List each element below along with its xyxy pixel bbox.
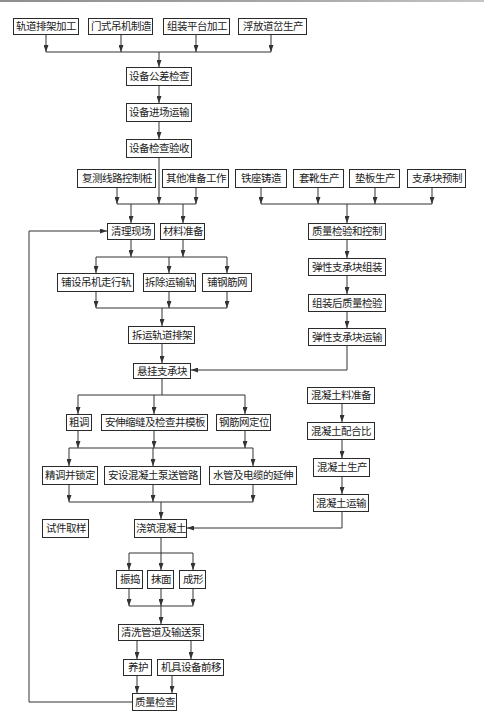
node-move-equipment-forward: 机具设备前移 — [157, 659, 224, 676]
arrow — [187, 512, 342, 528]
node-clean-pipe-pump: 清洗管道及输送泵 — [118, 624, 204, 641]
connectors-equipment-prep — [46, 35, 271, 223]
node-equipment-site-transport: 设备进场运输 — [126, 103, 192, 122]
node-quality-inspection-control: 质量检验和控制 — [308, 223, 386, 240]
node-elastic-block-assembly: 弹性支承块组装 — [308, 258, 386, 276]
node-vibrate: 振捣 — [116, 570, 143, 589]
node-concrete-production: 混凝土生产 — [313, 458, 370, 477]
node-assembly-platform-processing: 组装平台加工 — [163, 18, 230, 35]
node-other-preparation: 其他准备工作 — [162, 169, 229, 188]
node-dismantle-track-frame: 拆运轨道排架 — [128, 326, 195, 344]
node-pad-plate-production: 垫板生产 — [349, 169, 400, 188]
connector-layer — [0, 0, 484, 725]
node-floating-turnout-production: 浮放道岔生产 — [238, 18, 307, 35]
node-post-assembly-inspection: 组装后质量检验 — [308, 294, 386, 312]
node-equipment-tolerance-check: 设备公差检查 — [126, 67, 192, 86]
node-resurvey-control-stakes: 复测线路控制桩 — [77, 169, 156, 188]
node-concrete-material-prep: 混凝土料准备 — [307, 387, 375, 404]
node-support-block-precast: 支承块预制 — [407, 169, 466, 188]
node-hang-support-blocks: 悬挂支承块 — [133, 363, 191, 379]
node-equipment-inspection-acceptance: 设备检查验收 — [126, 139, 192, 158]
node-rebar-mesh-positioning: 钢筋网定位 — [216, 414, 271, 431]
node-forming: 成形 — [179, 570, 206, 589]
node-coarse-adjustment: 粗调 — [66, 414, 92, 431]
node-curing: 养护 — [123, 659, 152, 676]
node-fine-adjust-lock: 精调并锁定 — [42, 466, 98, 485]
node-gantry-crane-manufacturing: 门式吊机制造 — [88, 18, 153, 35]
node-track-frame-processing: 轨道排架加工 — [13, 18, 79, 35]
node-material-preparation: 材料准备 — [160, 223, 205, 240]
node-iron-seat-casting: 铁座铸造 — [235, 169, 287, 188]
node-remove-transport-rail: 拆除运输轨 — [143, 273, 196, 292]
node-lay-rebar-mesh: 铺钢筋网 — [202, 273, 252, 292]
node-boot-sleeve-production: 套靴生产 — [293, 169, 344, 188]
node-concrete-transport: 混凝土运输 — [313, 494, 369, 512]
node-quality-check: 质量检查 — [132, 693, 177, 711]
node-concrete-mix-ratio: 混凝土配合比 — [307, 422, 375, 440]
arrow — [191, 346, 347, 370]
node-extend-water-cable: 水管及电缆的延伸 — [209, 466, 297, 485]
node-elastic-block-transport: 弹性支承块运输 — [308, 328, 386, 346]
node-site-clearing: 清理现场 — [107, 223, 155, 240]
node-trowel-surface: 抹面 — [147, 570, 174, 589]
node-specimen-sampling: 试件取样 — [42, 519, 89, 538]
node-install-joint-manhole-formwork: 安伸缩缝及检查井模板 — [101, 414, 208, 431]
node-install-pump-pipeline: 安设混凝土泵送管路 — [104, 466, 201, 485]
node-pour-concrete: 浇筑混凝土 — [134, 519, 187, 538]
node-lay-crane-running-rail: 铺设吊机走行轨 — [57, 273, 134, 292]
